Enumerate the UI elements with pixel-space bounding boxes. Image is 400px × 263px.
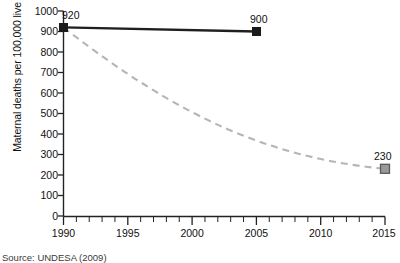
observed-mmr-line [64,27,257,31]
x-tick-label: 1995 [108,228,148,239]
data-point-marker-1990 [59,23,68,32]
data-point-marker-2005 [252,27,261,36]
data-label-900: 900 [250,14,268,25]
source-note: Source: UNDESA (2009) [2,252,107,263]
x-axis-minor-ticks [76,217,372,223]
data-point-marker-2015 [381,164,390,173]
x-tick-label: 2010 [301,228,341,239]
x-tick-label: 2015 [364,228,400,239]
x-tick-label: 2000 [172,228,212,239]
y-axis-ticks [58,11,64,216]
data-label-920: 920 [62,10,80,21]
x-axis-major-ticks [64,217,386,226]
x-tick-label: 2005 [236,228,276,239]
mdg-target-trajectory-line [64,27,386,168]
data-label-230: 230 [374,151,392,162]
x-tick-label: 1990 [44,228,84,239]
